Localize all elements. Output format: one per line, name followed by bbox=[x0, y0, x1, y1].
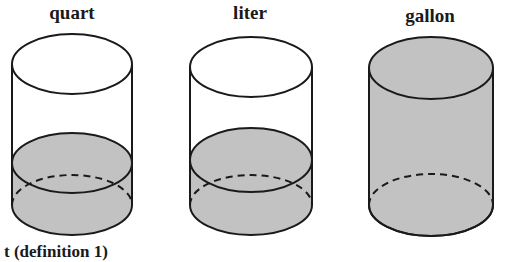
quart-cylinder bbox=[12, 34, 132, 235]
gallon-cylinder bbox=[369, 37, 493, 236]
liter-cylinder bbox=[190, 37, 312, 235]
figure-caption: t (definition 1) bbox=[4, 242, 108, 262]
